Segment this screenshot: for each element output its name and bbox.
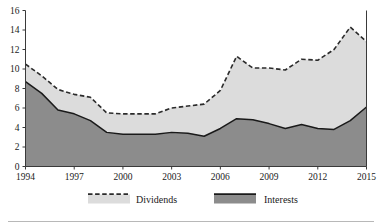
legend-swatch <box>88 195 130 204</box>
x-tick-label: 2006 <box>211 172 230 182</box>
legend-label: Dividends <box>136 194 177 205</box>
chart-container: 0246810121416 19941997200020032006200920… <box>0 0 382 223</box>
y-tick-label: 14 <box>10 25 20 35</box>
x-tick-label: 2000 <box>113 172 132 182</box>
y-tick-label: 0 <box>15 162 20 172</box>
y-tick-label: 12 <box>10 45 20 55</box>
legend-item[interactable]: Interests <box>214 194 298 205</box>
y-tick-label: 10 <box>10 64 20 74</box>
x-tick-label: 1994 <box>16 172 35 182</box>
x-tick-label: 2003 <box>162 172 181 182</box>
x-tick-label: 2015 <box>357 172 376 182</box>
area-chart: 0246810121416 19941997200020032006200920… <box>0 0 382 223</box>
y-tick-label: 8 <box>15 84 20 94</box>
x-tick-label: 2009 <box>260 172 279 182</box>
y-tick-label: 4 <box>15 123 20 133</box>
legend-label: Interests <box>264 194 298 205</box>
x-tick-label: 2012 <box>308 172 327 182</box>
y-tick-label: 2 <box>15 142 20 152</box>
x-tick-label: 1997 <box>65 172 84 182</box>
y-tick-label: 6 <box>15 103 20 113</box>
legend-swatch <box>214 195 256 204</box>
y-tick-label: 16 <box>10 6 20 16</box>
